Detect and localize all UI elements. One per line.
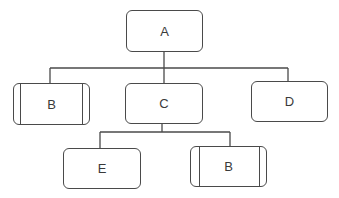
node-a-label: A (160, 24, 169, 39)
node-b-left-label: B (47, 97, 56, 112)
side-bar-left (199, 147, 200, 186)
node-c-label: C (159, 96, 168, 111)
node-d: D (251, 81, 328, 122)
side-bar-right (259, 147, 260, 186)
side-bar-right (82, 84, 83, 124)
node-b-left: B (13, 83, 90, 125)
node-e: E (63, 148, 141, 189)
side-bar-left (20, 84, 21, 124)
node-a: A (126, 10, 203, 52)
node-b-right: B (190, 146, 267, 187)
node-e-label: E (98, 161, 107, 176)
node-c: C (125, 83, 203, 124)
node-b-right-label: B (224, 159, 233, 174)
node-d-label: D (285, 94, 294, 109)
